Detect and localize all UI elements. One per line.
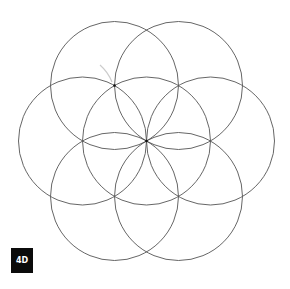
point-0 [145, 140, 148, 143]
logo-badge: 4D [11, 248, 33, 273]
point-1 [113, 84, 116, 87]
intersection-points [113, 84, 148, 142]
badge-label: 4D [16, 256, 28, 265]
seed-of-life-diagram [0, 0, 290, 289]
guide-arc [100, 65, 112, 82]
